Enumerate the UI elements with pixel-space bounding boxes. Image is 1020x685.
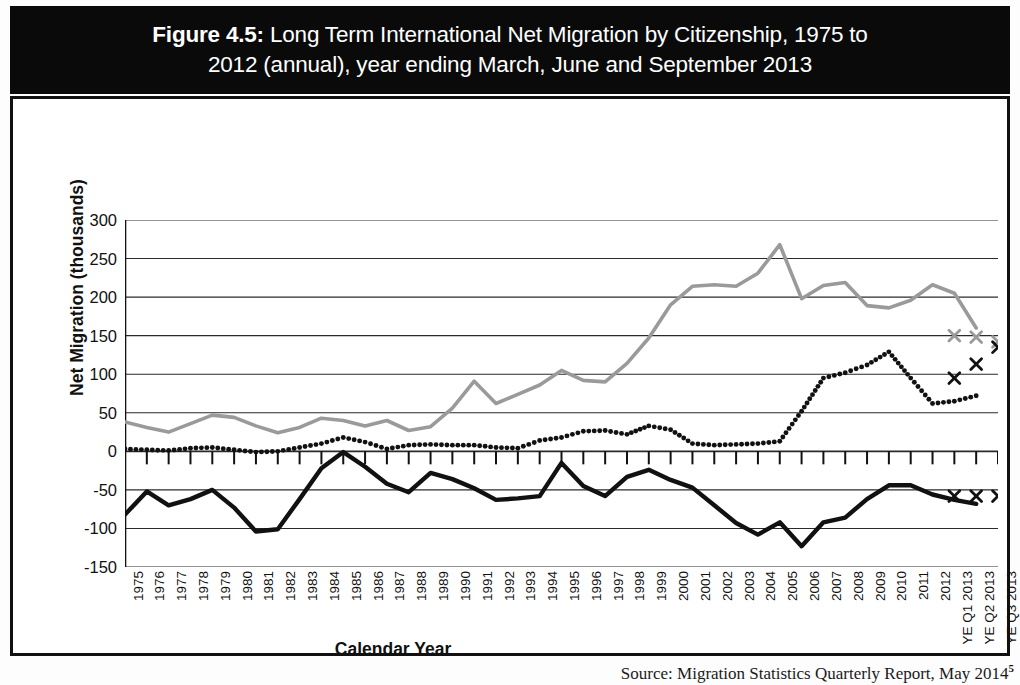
series-dot [565, 433, 570, 438]
figure-title-line-1: Figure 4.5: Long Term International Net … [152, 20, 867, 50]
x-tick-label-1976: 1976 [152, 571, 167, 601]
series-dot [341, 435, 346, 440]
series-dot [450, 443, 455, 448]
quarter-marker-x [993, 491, 998, 502]
series-dot [237, 448, 242, 453]
series-dot [526, 442, 531, 447]
series-dot [886, 349, 891, 354]
series-dot [363, 440, 368, 445]
y-tick-label--50: -50 [93, 480, 117, 499]
x-tick-label-ye-q1-2013: YE Q1 2013 [960, 571, 975, 645]
series-dot [226, 447, 231, 452]
plot-area [125, 220, 998, 567]
series-dot [681, 436, 686, 441]
series-dot [368, 441, 373, 446]
series-dot [581, 429, 586, 434]
series-dot [183, 446, 188, 451]
series-dot [254, 450, 259, 455]
series-dot [968, 395, 973, 400]
series-dot [444, 443, 449, 448]
series-dot [629, 430, 634, 435]
x-tick-label-2009: 2009 [873, 571, 888, 601]
series-dot [352, 437, 357, 442]
y-tick-label--100: -100 [84, 519, 117, 538]
x-tick-label-1987: 1987 [392, 571, 407, 601]
series-dot [912, 380, 917, 385]
series-dot [706, 442, 711, 447]
series-dot [902, 368, 907, 373]
x-tick-label-1980: 1980 [240, 571, 255, 601]
series-dot [428, 442, 433, 447]
series-dot [882, 352, 887, 357]
series-dot [787, 426, 792, 431]
series-dot [837, 372, 842, 377]
series-dot [379, 445, 384, 450]
series-dot [890, 353, 895, 358]
series-dot [286, 447, 291, 452]
series-dot [755, 441, 760, 446]
series-dot [761, 441, 766, 446]
series-dot [215, 446, 220, 451]
x-axis-title: Calendar Year [13, 639, 773, 660]
series-dot [963, 396, 968, 401]
series-dot [575, 430, 580, 435]
series-dot [434, 442, 439, 447]
figure-page: Figure 4.5: Long Term International Net … [0, 0, 1020, 685]
x-tick-label-2007: 2007 [829, 571, 844, 601]
series-dot [899, 364, 904, 369]
series-dot [439, 442, 444, 447]
series-dot [896, 361, 901, 366]
series-dot [619, 431, 624, 436]
x-tick-label-2004: 2004 [763, 571, 778, 601]
series-dot [723, 442, 728, 447]
series-dot [869, 360, 874, 365]
x-tick-label-1979: 1979 [218, 571, 233, 601]
series-dot [745, 442, 750, 447]
chart-frame: Net Migration (thousands) 30025020015010… [10, 96, 1010, 656]
series-dot [930, 401, 935, 406]
source-caption: Source: Migration Statistics Quarterly R… [0, 662, 1014, 684]
x-tick-label-1984: 1984 [327, 571, 342, 601]
series-dot [818, 380, 823, 385]
source-text: Source: Migration Statistics Quarterly R… [621, 664, 1009, 683]
series-dot [303, 444, 308, 449]
series-dot [570, 432, 575, 437]
series-dot [259, 449, 264, 454]
series-dot [854, 366, 859, 371]
x-tick-label-1998: 1998 [632, 571, 647, 601]
x-tick-label-1978: 1978 [196, 571, 211, 601]
series-dot [652, 424, 657, 429]
series-dot [805, 400, 810, 405]
series-dot [802, 405, 807, 410]
series-dot [826, 374, 831, 379]
series-dot [893, 357, 898, 362]
figure-title-banner: Figure 4.5: Long Term International Net … [10, 6, 1010, 94]
series-dot [952, 399, 957, 404]
series-dot [504, 445, 509, 450]
x-tick-label-2003: 2003 [742, 571, 757, 601]
series-dot [633, 429, 638, 434]
series-dot [472, 443, 477, 448]
x-tick-label-1989: 1989 [436, 571, 451, 601]
series-dot [357, 438, 362, 443]
series-dot [663, 426, 668, 431]
series-dot [603, 428, 608, 433]
series-dot [865, 363, 870, 368]
y-tick-label-300: 300 [89, 211, 117, 230]
series-dot [614, 430, 619, 435]
x-tick-label-2000: 2000 [676, 571, 691, 601]
series-dot [193, 446, 198, 451]
series-dot [559, 435, 564, 440]
x-tick-label-1996: 1996 [589, 571, 604, 601]
x-tick-label-1997: 1997 [611, 571, 626, 601]
series-dot [483, 444, 488, 449]
y-tick-label-150: 150 [89, 326, 117, 345]
x-tick-label-1995: 1995 [567, 571, 582, 601]
y-tick-label-0: 0 [108, 442, 117, 461]
x-tick-label-ye-q3-2013: YE Q3 2013 [1004, 571, 1019, 645]
series-dot [905, 372, 910, 377]
series-dot [686, 438, 691, 443]
series-dot [499, 445, 504, 450]
series-dot [957, 397, 962, 402]
x-tick-label-2010: 2010 [894, 571, 909, 601]
